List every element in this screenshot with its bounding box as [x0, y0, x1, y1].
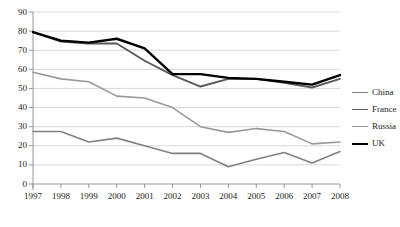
legend-label: France — [372, 105, 397, 114]
x-axis-label: 2008 — [325, 192, 355, 201]
y-axis-label: 90 — [1, 8, 27, 17]
legend-label: Russia — [372, 122, 396, 131]
legend-swatch-france — [352, 109, 368, 110]
legend-swatch-russia — [352, 126, 368, 127]
series-line-uk — [33, 32, 340, 85]
line-chart: 0102030405060708090 19971998199920002001… — [0, 0, 400, 227]
x-axis-label: 1997 — [18, 192, 48, 201]
legend-item-russia[interactable]: Russia — [352, 118, 400, 135]
legend-item-china[interactable]: China — [352, 84, 400, 101]
y-axis-label: 30 — [1, 122, 27, 131]
y-axis-label: 0 — [1, 180, 27, 189]
x-axis-label: 2003 — [185, 192, 215, 201]
series-line-china — [33, 131, 340, 166]
y-axis-label: 20 — [1, 141, 27, 150]
x-axis-label: 2004 — [213, 192, 243, 201]
y-axis-label: 80 — [1, 27, 27, 36]
y-axis-label: 10 — [1, 160, 27, 169]
x-axis-label: 2000 — [102, 192, 132, 201]
legend-item-uk[interactable]: UK — [352, 135, 400, 152]
x-axis-label: 2005 — [241, 192, 271, 201]
x-axis-label: 2007 — [297, 192, 327, 201]
x-axis-label: 2001 — [130, 192, 160, 201]
legend-item-france[interactable]: France — [352, 101, 400, 118]
y-axis-label: 60 — [1, 65, 27, 74]
legend-label: China — [372, 88, 394, 97]
series-line-france — [33, 32, 340, 87]
legend-label: UK — [372, 139, 385, 148]
y-axis-label: 70 — [1, 46, 27, 55]
legend-swatch-china — [352, 92, 368, 93]
x-axis-label: 2002 — [158, 192, 188, 201]
x-axis-label: 1999 — [74, 192, 104, 201]
x-axis-label: 1998 — [46, 192, 76, 201]
x-axis-label: 2006 — [269, 192, 299, 201]
legend-swatch-uk — [352, 143, 368, 145]
y-axis-label: 50 — [1, 84, 27, 93]
chart-legend: ChinaFranceRussiaUK — [352, 84, 400, 152]
y-axis-label: 40 — [1, 103, 27, 112]
